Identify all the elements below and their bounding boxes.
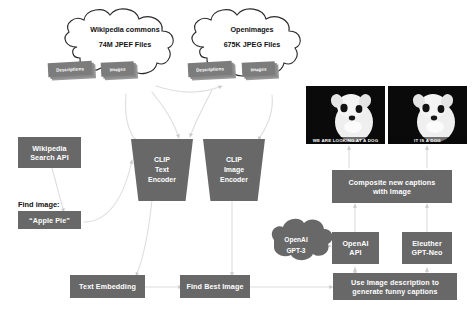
dog-illustration-icon xyxy=(388,86,467,144)
cloud-subtitle-openai-gpt3: GPT-3 xyxy=(266,247,326,254)
node-line-1: Find Best Image xyxy=(186,282,243,291)
node-line-1: Composite new captions xyxy=(349,178,436,187)
wikipedia-search-api-node[interactable]: Wikipedia Search API xyxy=(18,137,81,168)
dog-photo-captioned: IT IS A DOG xyxy=(388,86,467,144)
chip-images-openimages[interactable]: Images xyxy=(242,61,276,77)
dog-photo-original: WE ARE LOOKING AT A DOG xyxy=(306,86,385,144)
cloud-subtitle-wikipedia-commons: 74M JPEF Files xyxy=(73,40,177,49)
find-image-label: Find image: xyxy=(18,200,59,209)
eleuther-gpt-neo-node[interactable]: Eleuther GPT-Neo xyxy=(402,232,452,264)
apple-pie-query-node[interactable]: “Apple Pie” xyxy=(18,211,81,229)
encoder-line-3: Encoder xyxy=(220,175,248,185)
find-best-image-node[interactable]: Find Best Image xyxy=(180,275,250,298)
chip-descriptions-openimages[interactable]: Descriptions xyxy=(188,61,233,77)
text-embedding-node[interactable]: Text Embedding xyxy=(70,275,145,298)
chip-label: Descriptions xyxy=(196,66,224,72)
encoder-line-2: Image xyxy=(224,165,244,175)
photo-caption: WE ARE LOOKING AT A DOG xyxy=(306,137,385,145)
node-line-1: Wikipedia xyxy=(32,144,66,153)
node-line-1: Eleuther xyxy=(412,239,442,248)
node-line-2: generate funny captions xyxy=(352,287,437,296)
cloud-title-wikipedia-commons: Wikipedia commons xyxy=(73,25,177,34)
node-line-2: with Image xyxy=(373,187,411,196)
chip-label: Descriptions xyxy=(56,66,84,72)
node-line-2: GPT-Neo xyxy=(411,248,442,257)
encoder-line-3: Encoder xyxy=(148,175,176,185)
clip-image-encoder[interactable]: CLIP Image Encoder xyxy=(203,139,265,201)
chip-images-wikipedia[interactable]: Images xyxy=(101,61,135,77)
composite-captions-node[interactable]: Composite new captions with Image xyxy=(332,170,452,203)
diagram-canvas: Wikipedia commons 74M JPEF Files Descrip… xyxy=(0,0,474,318)
encoder-line-1: CLIP xyxy=(226,155,242,165)
openai-api-node[interactable]: OpenAI API xyxy=(332,232,379,264)
cloud-title-openai-gpt3: OpenAI xyxy=(266,236,326,243)
cloud-subtitle-openimages: 675K JPEG Files xyxy=(200,40,304,49)
chip-descriptions-wikipedia[interactable]: Descriptions xyxy=(48,61,93,77)
clip-text-encoder[interactable]: CLIP Text Encoder xyxy=(131,139,193,201)
chip-label: Images xyxy=(109,66,125,72)
node-line-1: OpenAI xyxy=(342,239,368,248)
node-line-1: Text Embedding xyxy=(79,282,136,291)
encoder-line-1: CLIP xyxy=(154,155,170,165)
use-image-description-node[interactable]: Use Image description to generate funny … xyxy=(333,273,457,300)
node-line-1: “Apple Pie” xyxy=(29,216,70,225)
chip-label: Images xyxy=(250,66,266,72)
dog-illustration-icon xyxy=(306,86,385,144)
shape-layer: Wikipedia commons 74M JPEF Files Descrip… xyxy=(0,0,474,318)
cloud-title-openimages: Openimages xyxy=(200,25,304,34)
photo-caption: IT IS A DOG xyxy=(388,137,467,145)
encoder-line-2: Text xyxy=(155,165,169,175)
node-line-2: Search API xyxy=(30,153,69,162)
node-line-2: API xyxy=(349,248,361,257)
node-line-1: Use Image description to xyxy=(351,278,439,287)
